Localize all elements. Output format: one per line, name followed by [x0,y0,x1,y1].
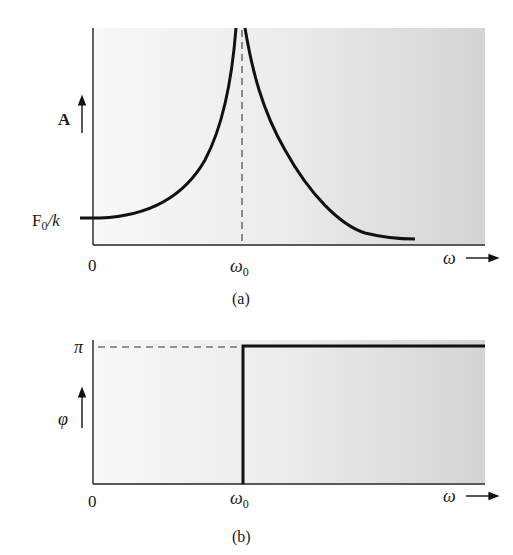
y-tick-pi: π [74,337,84,357]
plot-area-b [93,340,485,483]
x-label-a: ω [443,248,456,268]
x-label-b: ω [443,486,456,506]
x-tick-omega0-a: ω0 [230,256,249,279]
y-label-b: φ [58,409,68,429]
plot-area-a [93,28,485,244]
x-origin-a: 0 [88,256,97,275]
resonance-figure: A F0/k 0 ω0 ω (a) π φ 0 ω0 ω (b) [0,0,513,555]
panel-b-phase-chart: π φ 0 ω0 ω (b) [58,337,494,546]
panel-a-amplitude-chart: A F0/k 0 ω0 ω (a) [32,28,494,308]
x-tick-omega0-b: ω0 [230,488,249,511]
y-label-a: A [58,110,71,129]
x-origin-b: 0 [88,492,97,511]
caption-b: (b) [232,528,251,546]
caption-a: (a) [232,290,250,308]
y-tick-f0k: F0/k [32,211,60,233]
